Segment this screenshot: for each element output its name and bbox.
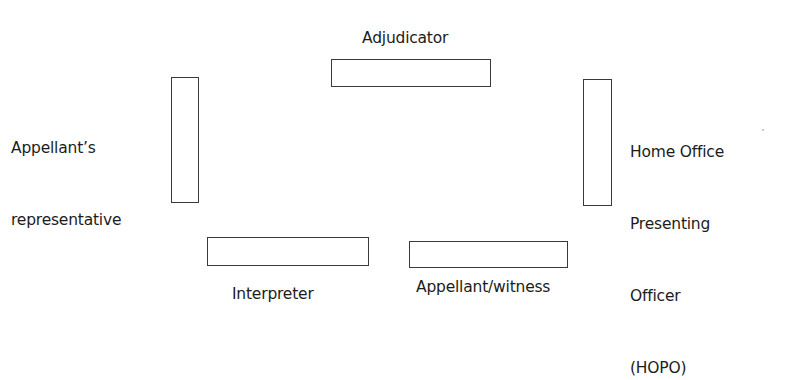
interpreter-seat: [207, 237, 369, 266]
hopo-label-line-4: (HOPO): [630, 356, 724, 380]
hopo-label: Home Office Presenting Officer (HOPO): [630, 92, 724, 380]
adjudicator-label: Adjudicator: [362, 26, 448, 50]
appellants-representative-label-line-2: representative: [11, 208, 121, 232]
adjudicator-seat: [331, 59, 491, 87]
hopo-seat: [583, 79, 612, 206]
scan-artifact-dot: [762, 129, 764, 131]
hopo-label-line-1: Home Office: [630, 140, 724, 164]
hopo-label-line-2: Presenting: [630, 212, 724, 236]
interpreter-label: Interpreter: [232, 282, 314, 306]
appellants-representative-seat: [171, 77, 199, 203]
hopo-label-line-3: Officer: [630, 284, 724, 308]
appellant-witness-label: Appellant/witness: [416, 275, 550, 299]
appellants-representative-label-line-1: Appellant’s: [11, 136, 121, 160]
appellants-representative-label: Appellant’s representative: [11, 88, 121, 280]
appellant-witness-seat: [409, 241, 568, 268]
